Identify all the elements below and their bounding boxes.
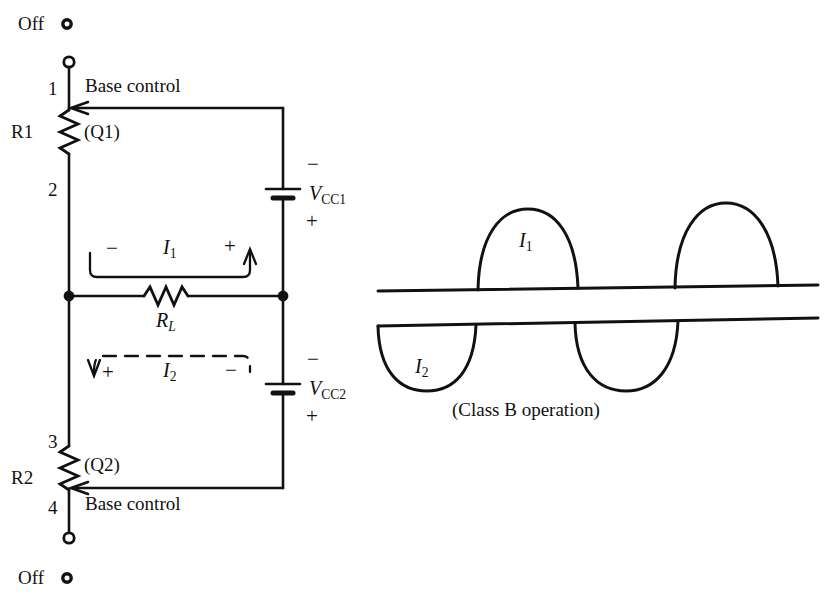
- waveform-i1-label: I1: [519, 230, 532, 253]
- resistor-r2-label: R2: [11, 468, 33, 487]
- terminal-1-open-circle-icon[interactable]: [64, 57, 74, 67]
- i2-current-label: I2: [163, 360, 176, 383]
- terminal-4-open-circle-icon[interactable]: [64, 533, 74, 543]
- waveform-i2-subscript: 2: [422, 365, 429, 380]
- i1-subscript: 1: [170, 246, 177, 261]
- waveform-baseline-i2: [378, 318, 818, 326]
- base-control-label-bottom: Base control: [85, 494, 181, 513]
- i1-symbol: I: [163, 236, 170, 258]
- off-terminal-top-icon[interactable]: [63, 20, 71, 28]
- resistor-r1-symbol: [60, 110, 78, 154]
- class-b-waveform-plot: [378, 203, 818, 391]
- node-label-3: 3: [48, 432, 58, 451]
- vcc1-symbol: V: [309, 182, 321, 204]
- resistor-r1-label: R1: [11, 122, 33, 141]
- waveform-i1-symbol: I: [519, 229, 526, 251]
- node-label-4: 4: [48, 498, 58, 517]
- waveform-caption: (Class B operation): [452, 400, 600, 419]
- resistor-r2-symbol: [60, 446, 78, 490]
- rl-symbol: R: [156, 309, 168, 331]
- resistor-rl-symbol: [144, 287, 188, 305]
- vcc1-plus-sign: +: [306, 211, 318, 232]
- vcc1-subscript: CC1: [321, 192, 346, 207]
- i1-current-label: I1: [163, 237, 176, 260]
- device-q2-label: (Q2): [84, 455, 120, 474]
- vcc2-plus-sign: +: [306, 406, 318, 427]
- rl-subscript: L: [168, 319, 176, 334]
- load-resistor-rl-label: RL: [156, 310, 176, 333]
- off-terminal-bottom-icon[interactable]: [63, 574, 71, 582]
- vcc2-label: VCC2: [309, 378, 346, 401]
- waveform-i2-symbol: I: [415, 355, 422, 377]
- waveform-i1-subscript: 1: [526, 239, 533, 254]
- i2-minus-sign: −: [225, 360, 237, 381]
- i1-minus-sign: −: [106, 238, 118, 259]
- waveform-i2-trough-2: [575, 321, 678, 391]
- i2-subscript: 2: [170, 369, 177, 384]
- vcc2-subscript: CC2: [321, 387, 346, 402]
- vcc1-minus-sign: −: [307, 154, 319, 175]
- waveform-baseline-i1: [378, 285, 818, 291]
- vcc2-minus-sign: −: [307, 349, 319, 370]
- vcc2-symbol: V: [309, 377, 321, 399]
- device-q1-label: (Q1): [84, 122, 120, 141]
- i2-plus-sign: +: [102, 362, 114, 383]
- node-label-2: 2: [48, 180, 58, 199]
- node-label-1: 1: [48, 79, 58, 98]
- waveform-i2-label: I2: [415, 356, 428, 379]
- waveform-i1-hump-2: [675, 203, 778, 288]
- base-control-label-top: Base control: [85, 76, 181, 95]
- i1-plus-sign: +: [224, 236, 236, 257]
- vcc1-label: VCC1: [309, 183, 346, 206]
- off-label-bottom: Off: [18, 568, 44, 587]
- i2-symbol: I: [163, 359, 170, 381]
- off-label-top: Off: [18, 14, 44, 33]
